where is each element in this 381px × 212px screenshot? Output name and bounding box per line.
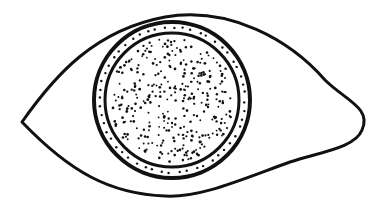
eye-illustration — [0, 0, 381, 212]
eye-diagram — [0, 0, 381, 212]
